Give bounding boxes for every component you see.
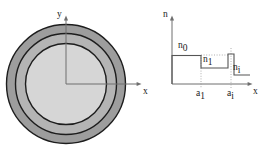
x-tick-a1: a1 [196,88,205,101]
profile-x-axis-arrow [248,82,253,86]
cross-section-x-axis-arrow [137,82,142,86]
figure-canvas: y x n0 [0,0,263,150]
svg-text:n1: n1 [203,54,213,67]
label-n0-sub: 0 [183,43,188,53]
svg-text:n0: n0 [178,40,188,53]
scientific-figure: y x n0 [0,0,263,150]
x-tick-ai: ai [227,88,234,101]
profile-n-axis-arrow [170,16,174,21]
profile-x-axis-label: x [253,86,258,96]
svg-text:a1: a1 [196,88,205,101]
x-tick-ai-sub: i [231,91,234,101]
label-ni-sub: i [238,65,241,75]
profile-n-axis-label: n [163,9,168,19]
cross-section-y-axis-arrow [64,16,68,21]
cross-section-y-axis-label: y [57,9,62,19]
label-n0: n0 [178,40,188,53]
cross-section-x-axis-label: x [143,86,148,96]
index-profile-chart: n0 n1 ni n x a1 [163,9,258,101]
label-n1: n1 [203,54,213,67]
cross-section-diagram: y x [7,9,149,144]
svg-text:ai: ai [227,88,234,101]
x-tick-a1-sub: 1 [200,91,205,101]
label-n1-sub: 1 [208,57,213,67]
